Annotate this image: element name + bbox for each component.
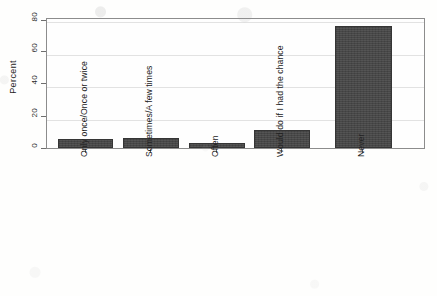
x-tick-label-never: Never (356, 134, 366, 157)
y-tick-label-0: 0 (30, 143, 39, 148)
bar-never (335, 26, 392, 148)
x-axis (46, 149, 425, 154)
y-tick-label-20: 20 (30, 108, 39, 118)
x-tick-label-only-once-once-or-twice: Only once/Once or twice (79, 61, 89, 157)
y-axis-title: Percent (8, 60, 18, 94)
y-tick-label-60: 60 (30, 43, 39, 53)
y-tick-label-40: 40 (30, 75, 39, 85)
bar-chart-figure: Percent 0 20 40 60 80 Only once/Once or … (0, 0, 437, 296)
x-tick-label-would-do-if-i-had-the-chance: Would do if I had the chance (275, 45, 285, 157)
x-tick-label-often: Often (210, 135, 220, 157)
x-tick-label-sometimes-a-few-times: Sometimes/A few times (144, 66, 154, 157)
gridline-80 (47, 22, 424, 23)
plot-area (46, 18, 425, 149)
y-tick-label-80: 80 (30, 12, 39, 22)
